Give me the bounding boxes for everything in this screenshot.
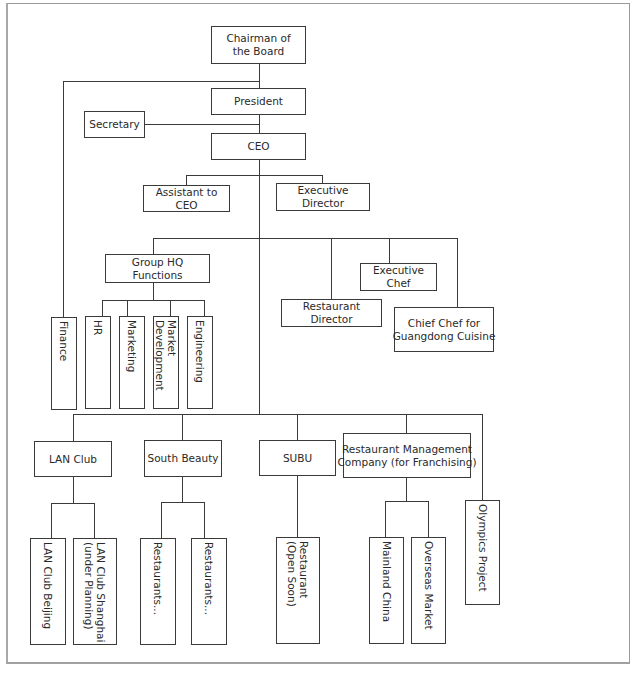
- connector-line: [482, 414, 483, 500]
- connector-line: [127, 300, 128, 316]
- connector-line: [406, 477, 407, 501]
- connector-line: [331, 238, 332, 299]
- node-overseas-market-label: Overseas Market: [423, 541, 435, 630]
- connector-line: [51, 503, 52, 538]
- node-president: President: [211, 88, 306, 115]
- node-secretary: Secretary: [84, 111, 145, 138]
- connector-line: [182, 476, 183, 502]
- connector-line: [63, 81, 64, 317]
- connector-line: [297, 475, 298, 537]
- connector-line: [161, 502, 204, 503]
- node-engineering: Engineering: [187, 316, 213, 409]
- node-ceo: CEO: [211, 133, 306, 160]
- node-chairman: Chairman of the Board: [211, 26, 306, 64]
- connector-line: [73, 476, 74, 503]
- node-hr-label: HR: [92, 320, 104, 335]
- node-south-beauty-restaurants-1: Restaurants...: [140, 538, 176, 645]
- node-mainland-china-label: Mainland China: [381, 541, 393, 622]
- node-executive-chef: Executive Chef: [360, 263, 437, 291]
- node-olympics-project: Olympics Project: [465, 500, 500, 605]
- node-restaurant-management-company: Restaurant Management Company (for Franc…: [343, 433, 471, 478]
- node-subu: SUBU: [259, 440, 336, 476]
- node-marketing-label: Marketing: [126, 320, 138, 372]
- node-subu-restaurant-label: Restaurant (Open Soon): [286, 541, 310, 607]
- connector-line: [153, 238, 457, 239]
- connector-line: [385, 501, 428, 502]
- connector-line: [259, 159, 260, 414]
- connector-line: [322, 175, 323, 183]
- connector-line: [153, 238, 154, 254]
- node-chief-chef-guangdong: Chief Chef for Guangdong Cuisine: [394, 307, 494, 352]
- node-lan-club-shanghai: LAN Club Shanghai (under Planning): [73, 538, 117, 645]
- node-group-hq-functions: Group HQ Functions: [105, 254, 210, 283]
- connector-line: [94, 503, 95, 538]
- connector-line: [389, 238, 390, 263]
- node-subu-restaurant: Restaurant (Open Soon): [276, 537, 320, 644]
- connector-line: [102, 300, 204, 301]
- node-marketing: Marketing: [119, 316, 145, 409]
- node-finance: Finance: [51, 317, 77, 410]
- connector-line: [204, 502, 205, 538]
- connector-line: [259, 63, 260, 88]
- connector-line: [186, 175, 187, 185]
- node-executive-director: Executive Director: [276, 183, 370, 211]
- connector-line: [186, 175, 322, 176]
- node-assistant-to-ceo: Assistant to CEO: [143, 185, 230, 212]
- connector-line: [73, 414, 74, 441]
- node-mainland-china: Mainland China: [369, 537, 404, 644]
- connector-line: [428, 501, 429, 537]
- node-lan-club: LAN Club: [34, 441, 112, 477]
- connector-line: [102, 300, 103, 316]
- node-restaurant-director: Restaurant Director: [281, 299, 382, 327]
- connector-line: [161, 502, 162, 538]
- node-overseas-market: Overseas Market: [411, 537, 446, 644]
- node-market-development: Market Development: [153, 316, 179, 409]
- connector-line: [385, 501, 386, 537]
- connector-line: [73, 414, 482, 415]
- node-finance-label: Finance: [58, 321, 70, 361]
- connector-line: [153, 282, 154, 300]
- node-south-beauty-restaurants-2-label: Restaurants...: [203, 542, 215, 615]
- connector-line: [204, 300, 205, 316]
- node-lan-club-shanghai-label: LAN Club Shanghai (under Planning): [83, 542, 107, 642]
- connector-line: [406, 414, 407, 433]
- connector-line: [63, 81, 259, 82]
- node-south-beauty: South Beauty: [144, 440, 222, 477]
- connector-line: [457, 238, 458, 307]
- connector-line: [297, 414, 298, 440]
- node-south-beauty-restaurants-2: Restaurants...: [191, 538, 227, 645]
- node-olympics-project-label: Olympics Project: [477, 504, 489, 592]
- node-lan-club-beijing-label: LAN Club Beijing: [42, 542, 54, 629]
- connector-line: [51, 503, 94, 504]
- node-south-beauty-restaurants-1-label: Restaurants...: [152, 542, 164, 615]
- connector-line: [170, 300, 171, 316]
- connector-line: [259, 114, 260, 133]
- connector-line: [182, 414, 183, 440]
- connector-line: [144, 124, 259, 125]
- node-engineering-label: Engineering: [194, 320, 206, 383]
- node-hr: HR: [85, 316, 111, 409]
- node-lan-club-beijing: LAN Club Beijing: [30, 538, 66, 645]
- node-market-development-label: Market Development: [154, 320, 178, 391]
